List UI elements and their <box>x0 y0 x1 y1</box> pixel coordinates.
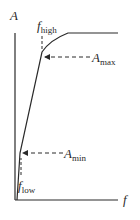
a-max-label: Amax <box>91 50 116 67</box>
amplitude-frequency-diagram: A f fhigh Amax Amin flow <box>0 0 140 220</box>
y-axis-label: A <box>9 8 18 23</box>
x-axis-label: f <box>123 192 129 207</box>
f-high-label: fhigh <box>37 18 57 35</box>
f-low-label: flow <box>18 178 36 195</box>
a-min-label: Amin <box>63 146 86 163</box>
